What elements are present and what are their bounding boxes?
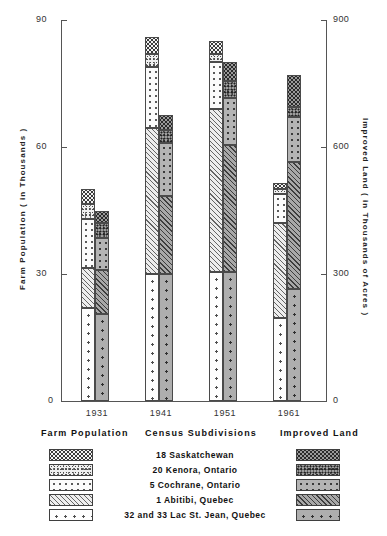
bar-farm-1951 [209,41,223,401]
seg-land-1941-lacstjean [159,274,173,401]
legend-header-census-subdivisions: Census Subdivisions [145,428,257,438]
seg-land-1961-abitibi [287,162,301,289]
right-axis-line [326,20,327,401]
seg-land-1931-lacstjean [95,314,109,401]
left-tick-label-30: 30 [36,268,47,278]
left-axis-title: Farm Population ( in Thousands ) [18,128,27,290]
seg-land-1951-abitibi [223,145,237,272]
seg-farm-1961-lacstjean [273,318,287,401]
right-axis-title: Improved Land ( in Thousands of Acres ) [361,118,370,316]
left-tick-label-0: 0 [48,395,53,405]
seg-land-1941-abitibi [159,196,173,274]
chart-figure: 90 60 30 0 Farm Population ( in Thousand… [0,0,387,536]
legend-label-cochrane: 5 Cochrane, Ontario [75,480,315,490]
bar-farm-1941 [145,37,159,401]
seg-land-1961-sask [287,75,301,107]
seg-farm-1941-cochrane [145,67,159,128]
seg-land-1941-sask [159,115,173,130]
seg-farm-1961-cochrane [273,194,287,224]
seg-land-1961-lacstjean [287,289,301,401]
legend-swatch-land-cochrane [296,479,340,491]
seg-land-1941-kenora [159,130,173,143]
seg-farm-1961-sask [273,183,287,189]
bar-land-1961 [287,75,301,401]
legend-label-abitibi: 1 Abitibi, Quebec [75,495,315,505]
seg-farm-1931-sask [81,189,95,204]
plot-area [61,20,326,401]
bar-land-1941 [159,115,173,401]
xlabel-1941: 1941 [141,408,181,418]
seg-farm-1951-lacstjean [209,272,223,401]
legend-label-kenora: 20 Kenora, Ontario [75,465,315,475]
seg-farm-1951-cochrane [209,62,223,109]
bar-land-1951 [223,62,237,401]
seg-farm-1951-kenora [209,54,223,63]
legend-swatch-land-lacstjean [296,509,340,521]
seg-farm-1951-abitibi [209,109,223,272]
x-axis-baseline [61,401,327,402]
seg-farm-1931-abitibi [81,268,95,308]
seg-land-1931-sask [95,211,109,224]
right-tick-label-300: 300 [333,268,349,278]
seg-land-1931-cochrane [95,238,109,270]
seg-farm-1931-lacstjean [81,308,95,401]
left-tick-label-60: 60 [36,141,47,151]
seg-land-1941-cochrane [159,143,173,196]
left-tick-label-90: 90 [36,14,47,24]
right-tick-label-0: 0 [333,395,338,405]
bar-land-1931 [95,211,109,402]
xlabel-1961: 1961 [269,408,309,418]
seg-farm-1941-lacstjean [145,274,159,401]
xlabel-1931: 1931 [77,408,117,418]
seg-farm-1961-abitibi [273,223,287,318]
right-tick-label-900: 900 [333,14,349,24]
legend-swatch-land-kenora [296,464,340,476]
seg-farm-1931-cochrane [81,219,95,268]
bar-farm-1931 [81,189,95,401]
legend-label-lacstjean: 32 and 33 Lac St. Jean, Quebec [75,510,315,520]
legend-header-improved-land: Improved Land [280,428,359,438]
legend-swatch-land-sask [296,449,340,461]
legend-swatch-land-abitibi [296,494,340,506]
seg-land-1961-cochrane [287,117,301,161]
seg-land-1951-cochrane [223,98,237,145]
seg-farm-1941-abitibi [145,128,159,274]
seg-land-1951-lacstjean [223,272,237,401]
seg-land-1931-abitibi [95,270,109,314]
seg-land-1951-kenora [223,81,237,98]
legend-label-sask: 18 Saskatchewan [75,450,315,460]
seg-farm-1951-sask [209,41,223,54]
bar-farm-1961 [273,183,287,401]
legend-header-farm-population: Farm Population [41,428,129,438]
seg-farm-1941-kenora [145,54,159,67]
seg-land-1931-kenora [95,223,109,238]
seg-farm-1961-kenora [273,189,287,193]
seg-land-1961-kenora [287,107,301,118]
seg-land-1951-sask [223,62,237,81]
seg-farm-1931-kenora [81,204,95,219]
seg-farm-1941-sask [145,37,159,54]
xlabel-1951: 1951 [205,408,245,418]
right-tick-label-600: 600 [333,141,349,151]
